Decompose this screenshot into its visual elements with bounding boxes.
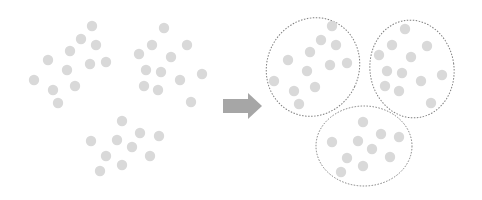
data-point bbox=[294, 99, 304, 109]
data-point bbox=[358, 161, 368, 171]
cluster-1 bbox=[250, 2, 376, 132]
data-point bbox=[87, 21, 97, 31]
data-point bbox=[380, 81, 390, 91]
data-point bbox=[134, 49, 144, 59]
data-point bbox=[159, 23, 169, 33]
data-point bbox=[29, 75, 39, 85]
arrow-head bbox=[248, 93, 262, 119]
data-point bbox=[305, 47, 315, 57]
data-point bbox=[112, 135, 122, 145]
data-point bbox=[175, 75, 185, 85]
data-point bbox=[154, 131, 164, 141]
data-point bbox=[394, 86, 404, 96]
right-arrow-icon bbox=[223, 93, 262, 119]
data-point bbox=[76, 34, 86, 44]
data-point bbox=[437, 70, 447, 80]
cluster-3 bbox=[316, 106, 412, 186]
data-point bbox=[382, 66, 392, 76]
data-point bbox=[342, 153, 352, 163]
arrow-body bbox=[223, 99, 249, 113]
data-point bbox=[336, 167, 346, 177]
cluster-2 bbox=[364, 15, 461, 124]
data-point bbox=[327, 137, 337, 147]
data-point bbox=[127, 142, 137, 152]
data-point bbox=[289, 86, 299, 96]
unclustered-points bbox=[29, 21, 207, 176]
data-point bbox=[53, 98, 63, 108]
data-point bbox=[310, 82, 320, 92]
diagram-canvas bbox=[0, 0, 482, 200]
data-point bbox=[62, 65, 72, 75]
data-point bbox=[406, 52, 416, 62]
data-point bbox=[342, 58, 352, 68]
data-point bbox=[153, 85, 163, 95]
data-point bbox=[101, 151, 111, 161]
data-point bbox=[156, 67, 166, 77]
data-point bbox=[147, 40, 157, 50]
clustered-points bbox=[250, 2, 460, 186]
data-point bbox=[135, 128, 145, 138]
data-point bbox=[166, 52, 176, 62]
data-point bbox=[316, 35, 326, 45]
data-point bbox=[141, 65, 151, 75]
data-point bbox=[394, 132, 404, 142]
data-point bbox=[117, 160, 127, 170]
data-point bbox=[374, 50, 384, 60]
data-point bbox=[327, 21, 337, 31]
data-point bbox=[400, 24, 410, 34]
data-point bbox=[302, 66, 312, 76]
data-point bbox=[197, 69, 207, 79]
data-point bbox=[331, 40, 341, 50]
data-point bbox=[70, 81, 80, 91]
data-point bbox=[385, 152, 395, 162]
data-point bbox=[86, 136, 96, 146]
data-point bbox=[353, 136, 363, 146]
data-point bbox=[182, 40, 192, 50]
data-point bbox=[117, 116, 127, 126]
data-point bbox=[416, 76, 426, 86]
data-point bbox=[269, 76, 279, 86]
data-point bbox=[43, 55, 53, 65]
data-point bbox=[358, 117, 368, 127]
data-point bbox=[397, 68, 407, 78]
data-point bbox=[48, 85, 58, 95]
data-point bbox=[85, 59, 95, 69]
data-point bbox=[387, 40, 397, 50]
data-point bbox=[145, 151, 155, 161]
clustering-diagram bbox=[0, 0, 482, 200]
data-point bbox=[139, 81, 149, 91]
data-point bbox=[367, 144, 377, 154]
cluster-boundary bbox=[364, 15, 461, 124]
data-point bbox=[325, 60, 335, 70]
data-point bbox=[65, 46, 75, 56]
data-point bbox=[376, 129, 386, 139]
data-point bbox=[283, 55, 293, 65]
data-point bbox=[91, 40, 101, 50]
data-point bbox=[101, 57, 111, 67]
data-point bbox=[95, 166, 105, 176]
data-point bbox=[422, 41, 432, 51]
data-point bbox=[426, 98, 436, 108]
data-point bbox=[186, 97, 196, 107]
cluster-boundary bbox=[250, 2, 376, 132]
